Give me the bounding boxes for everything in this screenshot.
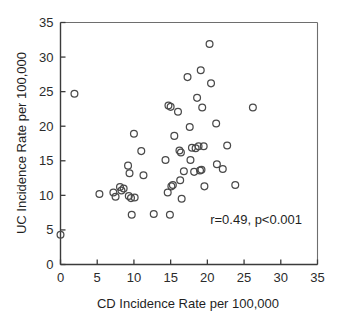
data-point — [200, 143, 207, 150]
data-point — [138, 148, 145, 155]
y-tick-label-30: 30 — [39, 50, 53, 65]
data-point — [175, 108, 182, 115]
data-point — [214, 161, 221, 168]
x-tick-label-30: 30 — [274, 270, 288, 285]
y-tick-label-35: 35 — [39, 15, 53, 30]
data-point — [249, 104, 256, 111]
y-tick-label-0: 0 — [46, 257, 53, 272]
data-point — [164, 189, 171, 196]
y-tick-label-5: 5 — [46, 222, 53, 237]
data-points — [57, 41, 256, 239]
y-tick-label-15: 15 — [39, 153, 53, 168]
chart-canvas: 0510152025303505101520253035 CD Incidenc… — [0, 0, 340, 322]
x-tick-label-20: 20 — [200, 270, 214, 285]
x-tick-label-15: 15 — [163, 270, 177, 285]
data-point — [232, 182, 239, 189]
data-point — [126, 170, 133, 177]
x-tick-label-0: 0 — [57, 270, 64, 285]
data-point — [162, 157, 169, 164]
data-point — [224, 142, 231, 149]
data-point — [71, 90, 78, 97]
data-point — [169, 182, 176, 189]
data-point — [178, 149, 185, 156]
x-axis-title: CD Incidence Rate per 100,000 — [97, 296, 279, 311]
data-point — [171, 132, 178, 139]
data-point — [131, 130, 138, 137]
data-point — [194, 94, 201, 101]
data-point — [180, 168, 187, 175]
data-point — [184, 74, 191, 81]
data-point — [96, 191, 103, 198]
correlation-annotation: r=0.49, p<0.001 — [210, 212, 302, 227]
data-point — [178, 195, 185, 202]
data-point — [213, 120, 220, 127]
axis-ticks — [61, 23, 318, 265]
x-tick-label-35: 35 — [310, 270, 324, 285]
data-point — [125, 162, 132, 169]
y-axis-title: UC Incidence Rate per 100,000 — [14, 52, 29, 234]
data-point — [206, 41, 213, 48]
x-tick-label-25: 25 — [237, 270, 251, 285]
data-point — [177, 177, 184, 184]
y-tick-label-10: 10 — [39, 188, 53, 203]
plot-frame — [61, 23, 318, 265]
x-tick-label-5: 5 — [94, 270, 101, 285]
data-point — [219, 166, 226, 173]
data-point — [186, 124, 193, 131]
scatter-plot-figure: 0510152025303505101520253035 CD Incidenc… — [0, 0, 340, 322]
x-tick-label-10: 10 — [127, 270, 141, 285]
data-point — [199, 104, 206, 111]
data-point — [140, 172, 147, 179]
data-point — [187, 157, 194, 164]
data-point — [167, 103, 174, 110]
y-tick-label-25: 25 — [39, 84, 53, 99]
data-point — [197, 67, 204, 74]
data-point — [167, 211, 174, 218]
data-point — [128, 211, 135, 218]
y-tick-label-20: 20 — [39, 119, 53, 134]
data-point — [150, 211, 157, 218]
data-point — [201, 183, 208, 190]
data-point — [208, 80, 215, 87]
